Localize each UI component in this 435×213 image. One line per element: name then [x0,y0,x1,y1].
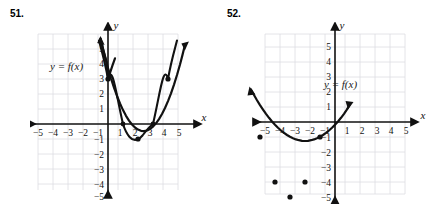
y-tick-2: 2 [99,89,104,99]
graph-51-svg: −5 −4 −3 −2 −1 1 2 3 4 5 5 4 3 2 [30,22,210,200]
x-tick--3: −3 [63,128,73,138]
function-label-51: y = f(x) [50,60,83,72]
curve-51 [99,41,177,140]
point-neg3-neg5 [287,194,292,199]
x-tick-1: 1 [118,128,123,138]
y-tick-5: 5 [99,44,104,54]
x-tick-4: 4 [389,126,394,136]
x-axis-label: x [201,111,207,123]
y-tick--2: −2 [94,150,104,160]
x-tick--2: −2 [305,126,315,136]
y-tick-4: 4 [326,57,331,67]
point-neg2-neg4 [302,179,307,184]
graph-52: −5 −4 −3 −2 −1 1 2 3 4 5 5 4 3 2 [243,22,428,204]
y-tick-5: 5 [326,42,331,52]
problem-number-52: 52. [227,8,241,19]
point-4-3 [165,76,170,81]
x-tick-2: 2 [133,128,138,138]
y-tick-labels: 5 4 3 2 1 −1 −2 −3 −4 −5 [94,44,104,200]
x-tick-5: 5 [177,128,182,138]
graph-52-svg: −5 −4 −3 −2 −1 1 2 3 4 5 5 4 3 2 [243,22,428,204]
y-tick--2: −2 [321,148,331,158]
curve-51-left [101,39,185,131]
axes [257,26,415,200]
y-tick--4: −4 [94,180,104,190]
x-tick--4: −4 [275,126,285,136]
worksheet-page: 51. [0,0,435,213]
problem-number-51: 51. [10,8,24,19]
point-neg4-neg4 [272,179,277,184]
problem-52: 52. [217,0,434,213]
y-tick--1: −1 [94,135,104,145]
y-tick-4: 4 [99,59,104,69]
problem-51: 51. [0,0,217,213]
x-tick--5: −5 [260,126,270,136]
x-tick-3: 3 [375,126,380,136]
point-1-0 [121,122,126,127]
point-0-3 [105,76,110,81]
y-tick-1: 1 [326,102,331,112]
point-3-0 [151,122,156,127]
x-axis-label: x [420,109,426,121]
graph-51: −5 −4 −3 −2 −1 1 2 3 4 5 5 4 3 2 [30,22,210,200]
x-tick-4: 4 [162,128,167,138]
x-tick--5: −5 [33,128,43,138]
x-tick-3: 3 [148,128,153,138]
y-tick--5: −5 [321,193,331,203]
x-tick-5: 5 [404,126,409,136]
x-tick-1: 1 [345,126,350,136]
x-tick-2: 2 [360,126,365,136]
x-tick--4: −4 [48,128,58,138]
y-tick--3: −3 [94,165,104,175]
function-label-52: y = f(x) [324,78,357,90]
y-tick--4: −4 [321,178,331,188]
y-tick-1: 1 [99,104,104,114]
x-tick--3: −3 [290,126,300,136]
y-tick-3: 3 [99,74,104,84]
y-axis-label: y [339,22,345,31]
y-tick--1: −1 [321,133,331,143]
y-tick--3: −3 [321,163,331,173]
y-tick--5: −5 [94,192,104,200]
x-tick--2: −2 [78,128,88,138]
y-axis-label: y [113,22,119,31]
